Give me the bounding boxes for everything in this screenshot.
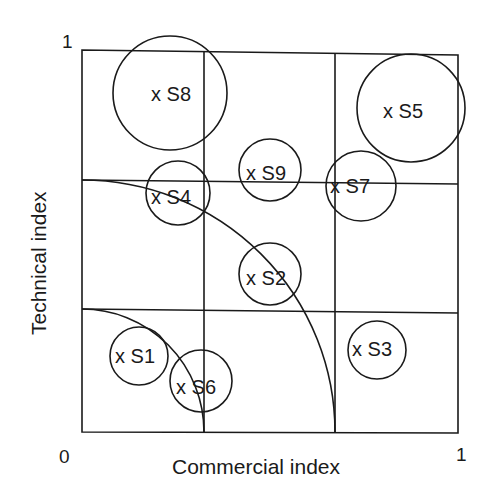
y-axis-title: Technical index xyxy=(27,191,50,335)
point-label-s1: x S1 xyxy=(115,345,155,367)
point-label-s4: x S4 xyxy=(151,186,191,208)
y-axis-max-label: 1 xyxy=(62,31,73,52)
point-label-s9: x S9 xyxy=(246,162,286,184)
x-axis-title: Commercial index xyxy=(172,455,341,478)
point-label-s3: x S3 xyxy=(352,338,392,360)
portfolio-diagram: x S8 x S5 x S4 x S9 x S7 x S2 x S1 x S6 … xyxy=(0,0,498,502)
x-axis-max-label: 1 xyxy=(456,444,467,465)
point-label-s8: x S8 xyxy=(151,83,191,105)
point-label-s5: x S5 xyxy=(383,100,423,122)
point-label-s6: x S6 xyxy=(176,376,216,398)
point-label-s2: x S2 xyxy=(246,267,286,289)
grid-horizontal-1 xyxy=(82,309,458,313)
x-axis-min-label: 0 xyxy=(59,446,70,467)
point-label-s7: x S7 xyxy=(330,175,370,197)
